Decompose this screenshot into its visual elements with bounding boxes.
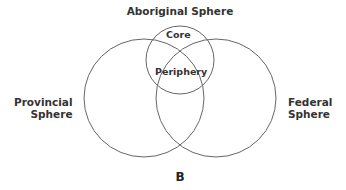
provincial-sphere-circle xyxy=(84,39,204,157)
provincial-sphere-label: Provincial Sphere xyxy=(14,96,73,120)
provincial-label-line2: Sphere xyxy=(14,108,73,120)
provincial-label-line1: Provincial xyxy=(14,96,73,108)
periphery-label: Periphery xyxy=(155,66,207,78)
federal-sphere-label: Federal Sphere xyxy=(288,96,332,120)
federal-label-line2: Sphere xyxy=(288,108,332,120)
aboriginal-sphere-label: Aboriginal Sphere xyxy=(0,5,346,17)
federal-label-line1: Federal xyxy=(288,96,332,108)
core-label: Core xyxy=(166,29,191,41)
panel-label: B xyxy=(0,171,346,183)
federal-sphere-circle xyxy=(156,39,276,157)
